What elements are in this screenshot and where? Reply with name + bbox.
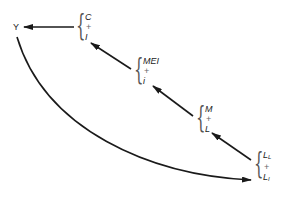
plus-icon: + bbox=[263, 162, 269, 172]
arrow-ll-to-ml bbox=[212, 133, 251, 160]
group-c-i-top: C bbox=[85, 12, 92, 22]
arrow-ml-to-mei bbox=[153, 86, 193, 116]
group-m-l-top: M bbox=[205, 104, 213, 114]
group-ll-li-bottom: LI bbox=[263, 172, 270, 184]
arrow-mei-to-ci bbox=[91, 43, 131, 69]
plus-icon: + bbox=[205, 114, 211, 124]
group-m-l-bottom: L bbox=[205, 124, 210, 134]
group-ll-li-top: LL bbox=[263, 150, 271, 162]
plus-icon: + bbox=[85, 22, 91, 32]
plus-icon: + bbox=[143, 66, 149, 76]
group-mei-i-bottom: i bbox=[143, 76, 145, 86]
group-c-i-bottom: I bbox=[85, 32, 88, 42]
diagram-canvas bbox=[0, 0, 287, 200]
output-node-y: Y bbox=[13, 23, 19, 32]
group-mei-i-top: MEI bbox=[143, 56, 159, 66]
